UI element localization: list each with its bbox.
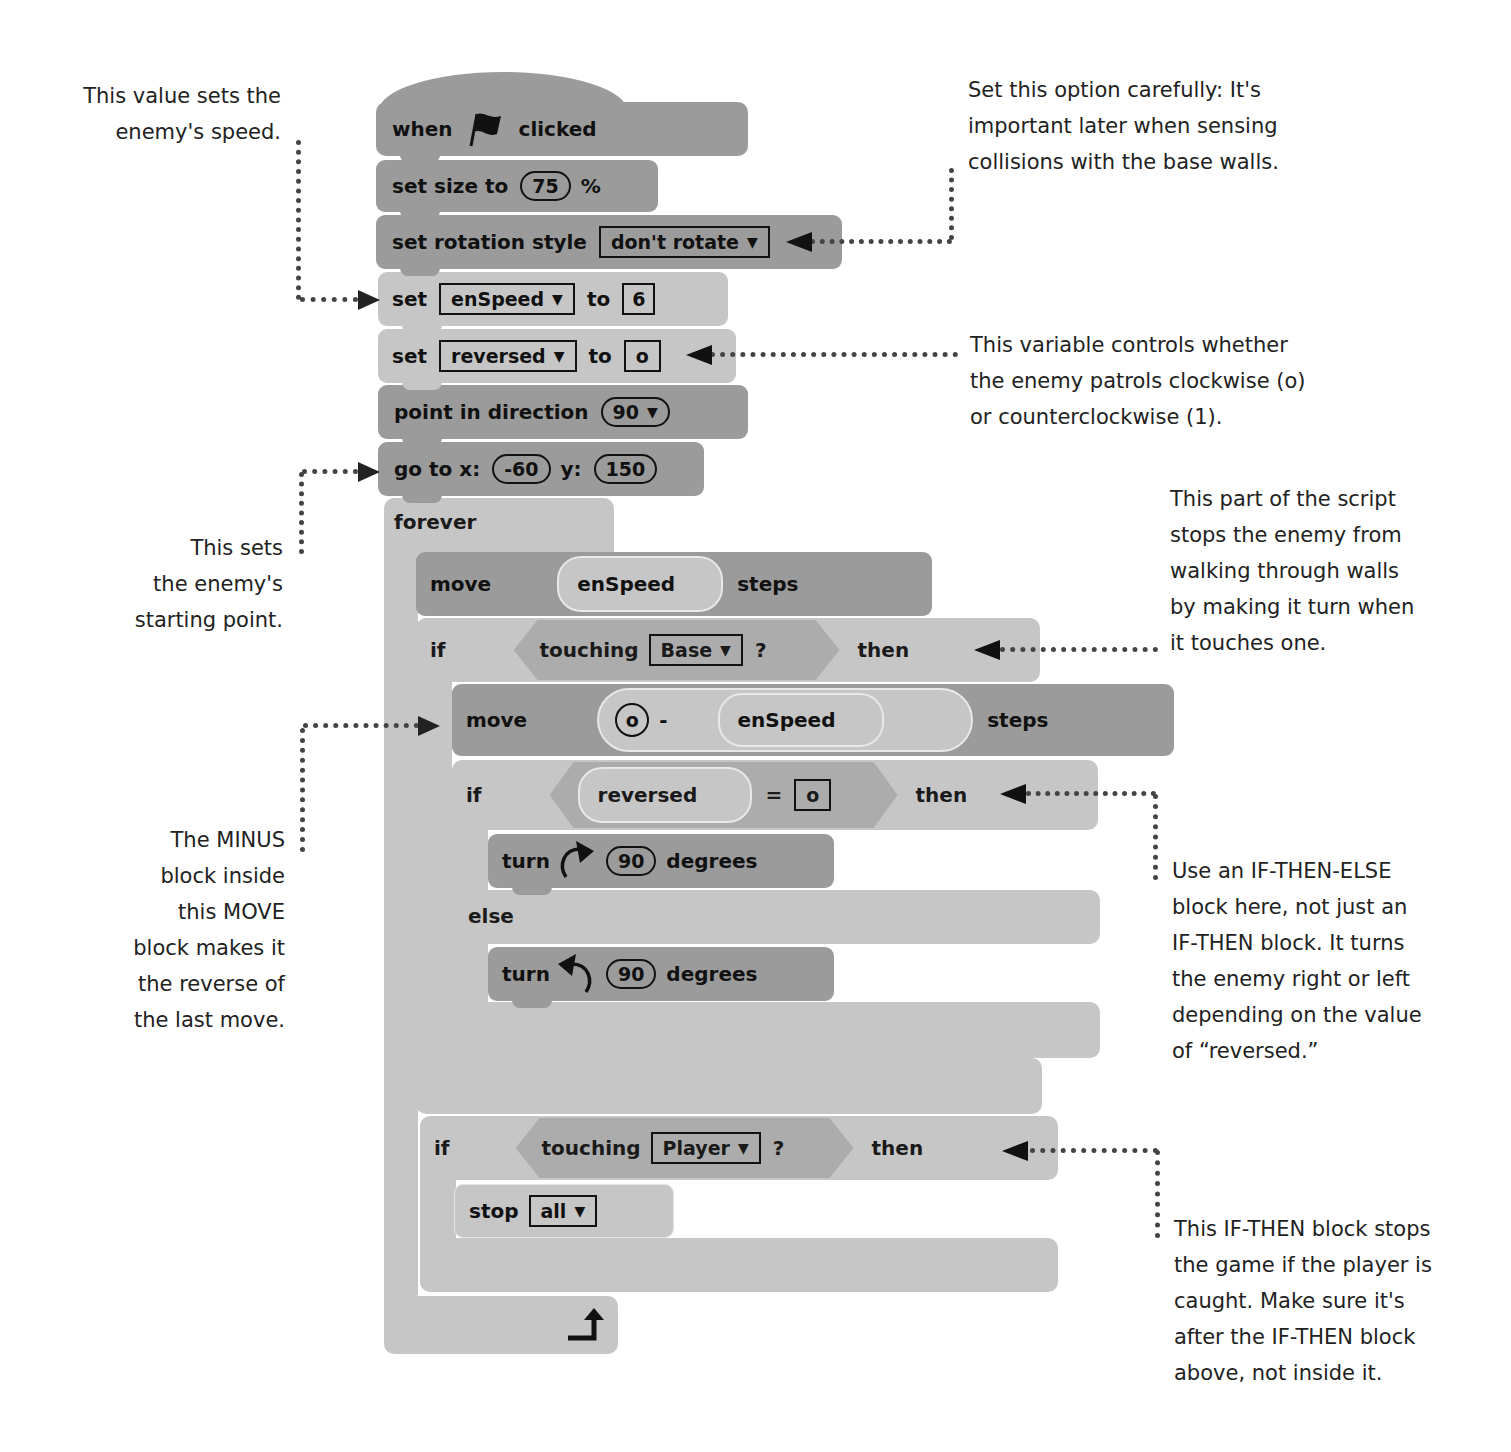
annotation-line: starting point. [135, 602, 283, 638]
leader-line [1000, 647, 1158, 652]
rotation-dropdown[interactable]: don't rotate ▼ [599, 226, 770, 258]
turn-left-block[interactable]: turn 90 degrees [488, 947, 834, 1001]
then-label: then [858, 638, 910, 662]
reporter-label: enSpeed [738, 708, 836, 732]
arrow-right-icon [358, 462, 380, 482]
dropdown-arrow-icon: ▼ [720, 642, 731, 658]
annotation-line: This IF-THEN block stops [1174, 1211, 1432, 1247]
degrees-label: degrees [666, 962, 757, 986]
direction-input[interactable]: 90 ▼ [601, 397, 670, 427]
when-flag-clicked-block[interactable]: when clicked [376, 102, 748, 156]
annotation-line: caught. Make sure it's [1174, 1283, 1432, 1319]
go-to-xy-block[interactable]: go to x: -60 y: 150 [378, 442, 704, 496]
variable-name: reversed [451, 345, 546, 367]
enspeed-reporter[interactable]: enSpeed [718, 693, 884, 747]
annotation-line: of “reversed.” [1172, 1033, 1422, 1069]
move-reverse-block[interactable]: move o - enSpeed steps [452, 684, 1174, 756]
dropdown-arrow-icon: ▼ [738, 1140, 749, 1156]
reversed-value-input[interactable]: o [624, 340, 661, 372]
leader-line [303, 723, 419, 728]
y-input[interactable]: 150 [594, 454, 658, 484]
variable-dropdown-reversed[interactable]: reversed ▼ [439, 340, 576, 372]
arrow-left-icon [1000, 784, 1026, 804]
annotation-line: by making it turn when [1170, 589, 1414, 625]
variable-dropdown-enspeed[interactable]: enSpeed ▼ [439, 283, 575, 315]
leader-line [810, 239, 952, 244]
touching-base-predicate[interactable]: touching Base ▼ ? [514, 620, 840, 680]
else-section [452, 890, 1100, 944]
set-rotation-style-block[interactable]: set rotation style don't rotate ▼ [376, 215, 842, 269]
point-in-direction-block[interactable]: point in direction 90 ▼ [378, 385, 748, 439]
reporter-label: reversed [598, 783, 698, 807]
leader-line [300, 728, 305, 852]
set-enspeed-block[interactable]: set enSpeed ▼ to 6 [378, 272, 728, 326]
annotation-line: after the IF-THEN block [1174, 1319, 1432, 1355]
arrow-left-icon [974, 640, 1000, 660]
touching-label: touching [540, 638, 639, 662]
annotation-rotation: Set this option carefully: It's importan… [968, 72, 1279, 180]
annotation-line: enemy's speed. [83, 114, 281, 150]
touching-label: touching [542, 1136, 641, 1160]
minus-operator[interactable]: o - enSpeed [597, 688, 973, 752]
enspeed-reporter[interactable]: enSpeed [557, 556, 723, 612]
x-input[interactable]: -60 [492, 454, 550, 484]
zero-input[interactable]: o [615, 703, 649, 737]
annotation-speed: This value sets the enemy's speed. [83, 78, 281, 150]
turn-left-degrees-input[interactable]: 90 [606, 959, 656, 989]
turn-right-block[interactable]: turn 90 degrees [488, 834, 834, 888]
leader-line [710, 352, 958, 357]
clicked-label: clicked [519, 117, 597, 141]
if-base-bottom [416, 1058, 1042, 1114]
reversed-reporter[interactable]: reversed [578, 767, 752, 823]
variable-name: enSpeed [451, 288, 544, 310]
target-value: Player [663, 1137, 730, 1159]
rotate-clockwise-icon [556, 841, 596, 881]
touching-player-predicate[interactable]: touching Player ▼ ? [516, 1118, 854, 1178]
set-reversed-block[interactable]: set reversed ▼ to o [378, 329, 736, 383]
direction-value: 90 [613, 401, 639, 423]
touching-target-dropdown[interactable]: Base ▼ [649, 634, 743, 666]
turn-label: turn [502, 962, 550, 986]
annotation-line: IF-THEN block. It turns [1172, 925, 1422, 961]
leader-line [302, 469, 358, 474]
equals-predicate[interactable]: reversed = o [550, 762, 898, 828]
size-input[interactable]: 75 [520, 171, 570, 201]
percent-label: % [581, 174, 601, 198]
minus-sign: - [659, 708, 667, 732]
reporter-label: enSpeed [577, 572, 675, 596]
when-label: when [392, 117, 453, 141]
leader-line [1155, 1150, 1160, 1238]
arrow-left-icon [786, 232, 812, 252]
if-label: if [430, 638, 446, 662]
annotation-line: This value sets the [83, 78, 281, 114]
set-label: set [392, 287, 427, 311]
goto-label: go to x: [394, 457, 480, 481]
arrow-left-icon [1002, 1141, 1028, 1161]
annotation-line: This variable controls whether [970, 327, 1305, 363]
arrow-right-icon [358, 290, 380, 310]
else-label: else [468, 904, 514, 928]
then-label: then [916, 783, 968, 807]
set-label: set [392, 344, 427, 368]
move-steps-block[interactable]: move enSpeed steps [416, 552, 932, 616]
stop-option-dropdown[interactable]: all ▼ [529, 1195, 598, 1227]
turn-right-degrees-input[interactable]: 90 [606, 846, 656, 876]
to-label: to [589, 344, 612, 368]
annotation-line: block makes it [133, 930, 285, 966]
if-else-bottom [452, 1002, 1100, 1058]
enspeed-value-input[interactable]: 6 [622, 283, 655, 315]
stop-all-block[interactable]: stop all ▼ [454, 1184, 674, 1238]
annotation-player: This IF-THEN block stops the game if the… [1174, 1211, 1432, 1391]
leader-line [1153, 794, 1158, 880]
compare-value-input[interactable]: o [794, 779, 831, 811]
leader-line [1030, 1148, 1158, 1153]
touching-target-dropdown[interactable]: Player ▼ [651, 1132, 761, 1164]
set-size-block[interactable]: set size to 75 % [376, 160, 658, 212]
annotation-line: Set this option carefully: It's [968, 72, 1279, 108]
annotation-start: This sets the enemy's starting point. [135, 530, 283, 638]
set-size-label: set size to [392, 174, 508, 198]
annotation-reversed: This variable controls whether the enemy… [970, 327, 1305, 435]
annotation-line: this MOVE [133, 894, 285, 930]
rotation-value: don't rotate [611, 231, 739, 253]
annotation-line: depending on the value [1172, 997, 1422, 1033]
